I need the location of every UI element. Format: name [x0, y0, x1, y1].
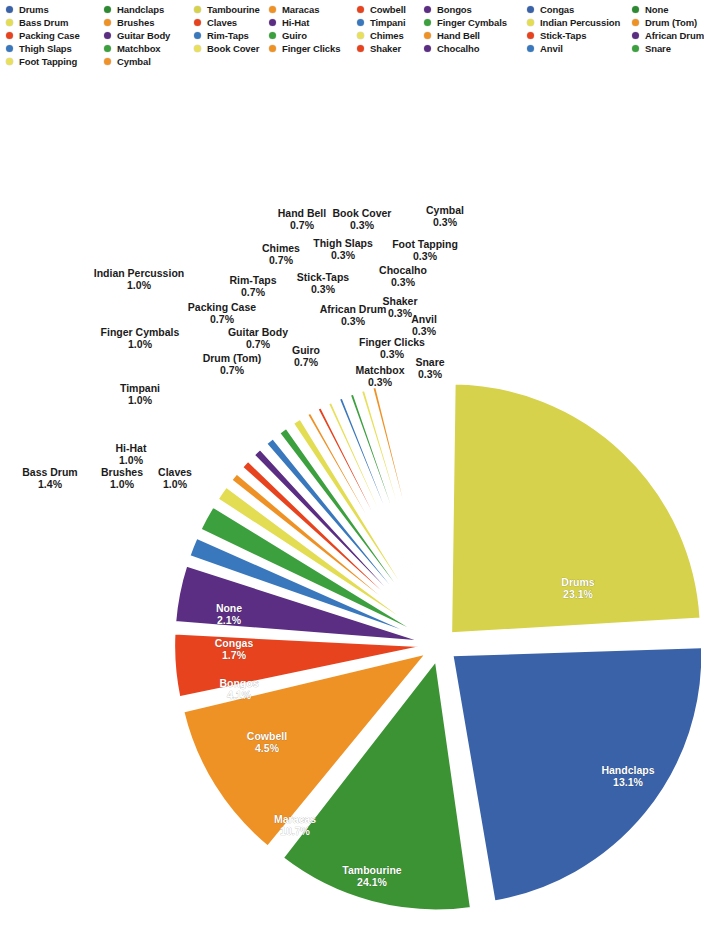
legend-item[interactable]: Chocalho: [424, 42, 507, 55]
legend-swatch-icon: [632, 6, 639, 13]
pie-slice-label-value: 0.3%: [331, 249, 356, 261]
pie-slice-label: African Drum0.3%: [320, 303, 387, 327]
pie-slice-label-value: 0.3%: [341, 315, 366, 327]
legend-item-label: Guiro: [282, 29, 307, 42]
legend-swatch-icon: [357, 32, 364, 39]
pie-slice-label-value: 4.1%: [227, 689, 252, 701]
legend-item[interactable]: Bass Drum: [6, 16, 80, 29]
pie-slice-label: Matchbox0.3%: [355, 364, 404, 388]
legend-item[interactable]: Brushes: [104, 16, 170, 29]
legend-item[interactable]: Chimes: [357, 29, 406, 42]
legend-swatch-icon: [632, 32, 639, 39]
legend-item[interactable]: Matchbox: [104, 42, 170, 55]
pie-slice-label-name: Tambourine: [342, 864, 401, 876]
pie-slice-label: Cymbal0.3%: [426, 204, 464, 228]
pie-slice-label-name: Guiro: [292, 344, 320, 356]
legend-item[interactable]: Anvil: [527, 42, 620, 55]
legend-item[interactable]: Indian Percussion: [527, 16, 620, 29]
legend-swatch-icon: [527, 32, 534, 39]
legend-column: MaracasHi-HatGuiroFinger Clicks: [269, 3, 340, 55]
legend-item-label: African Drum: [645, 29, 704, 42]
legend-item[interactable]: Hand Bell: [424, 29, 507, 42]
pie-slice-label: Snare0.3%: [415, 356, 444, 380]
pie-slice-label-name: Chocalho: [379, 264, 427, 276]
legend-item[interactable]: Cowbell: [357, 3, 406, 16]
legend-item-label: Stick-Taps: [540, 29, 586, 42]
pie-slice-label-name: Packing Case: [188, 301, 256, 313]
pie-chart-svg: Tambourine24.1%Drums23.1%Handclaps13.1%M…: [0, 74, 701, 928]
legend-item[interactable]: Timpani: [357, 16, 406, 29]
legend-item[interactable]: Bongos: [424, 3, 507, 16]
pie-slice-label-value: 0.7%: [269, 254, 294, 266]
legend-item[interactable]: Drum (Tom): [632, 16, 704, 29]
pie-slice-label: Finger Cymbals1.0%: [101, 326, 180, 350]
legend-swatch-icon: [6, 6, 13, 13]
legend-item[interactable]: Handclaps: [104, 3, 170, 16]
pie-slice-label-name: Indian Percussion: [94, 267, 184, 279]
legend-item-label: Timpani: [370, 16, 406, 29]
legend-item[interactable]: Packing Case: [6, 29, 80, 42]
legend-item[interactable]: Guitar Body: [104, 29, 170, 42]
pie-slice-label: Rim-Taps0.7%: [229, 274, 276, 298]
legend-item[interactable]: Guiro: [269, 29, 340, 42]
pie-slice-label-name: Finger Clicks: [359, 336, 425, 348]
pie-slice-label-name: Foot Tapping: [392, 238, 458, 250]
legend-item[interactable]: Shaker: [357, 42, 406, 55]
pie-slice-label-value: 0.3%: [412, 325, 437, 337]
legend-item-label: Tambourine: [207, 3, 260, 16]
pie-slice-label-name: Snare: [415, 356, 444, 368]
pie-slice-label-name: Bongos: [219, 677, 258, 689]
legend-item-label: Matchbox: [117, 42, 161, 55]
legend-item[interactable]: Drums: [6, 3, 80, 16]
pie-slice-label: Book Cover0.3%: [333, 207, 392, 231]
pie-slice-label-name: Finger Cymbals: [101, 326, 180, 338]
pie-slice[interactable]: [452, 647, 701, 901]
legend-swatch-icon: [194, 45, 201, 52]
legend-item-label: Hi-Hat: [282, 16, 309, 29]
pie-slice-label-name: Book Cover: [333, 207, 392, 219]
legend-item[interactable]: Book Cover: [194, 42, 260, 55]
legend-item[interactable]: Rim-Taps: [194, 29, 260, 42]
legend-swatch-icon: [269, 19, 276, 26]
legend-item[interactable]: Thigh Slaps: [6, 42, 80, 55]
legend-item[interactable]: Congas: [527, 3, 620, 16]
legend-item[interactable]: Hi-Hat: [269, 16, 340, 29]
pie-slice-label-value: 1.0%: [127, 279, 152, 291]
legend-item-label: Snare: [645, 42, 671, 55]
legend-item[interactable]: Finger Cymbals: [424, 16, 507, 29]
legend-item[interactable]: African Drum: [632, 29, 704, 42]
pie-slice-label-value: 0.7%: [241, 286, 266, 298]
pie-slice-label-name: Stick-Taps: [297, 271, 349, 283]
pie-slice-label-value: 4.5%: [255, 742, 280, 754]
legend-item[interactable]: Stick-Taps: [527, 29, 620, 42]
pie-slice-label-name: African Drum: [320, 303, 387, 315]
pie-slice-label-value: 2.1%: [217, 614, 242, 626]
legend-item[interactable]: Maracas: [269, 3, 340, 16]
legend-item[interactable]: Snare: [632, 42, 704, 55]
pie-slice-label-name: Rim-Taps: [229, 274, 276, 286]
legend-item[interactable]: Cymbal: [104, 55, 170, 68]
pie-slice-label-value: 24.1%: [357, 876, 387, 888]
pie-slice-label-name: Shaker: [382, 295, 417, 307]
pie-slice-label-name: Drums: [561, 576, 594, 588]
pie-slice-label-name: Hand Bell: [278, 207, 327, 219]
pie-slice-label: Timpani1.0%: [120, 382, 160, 406]
pie-slice-label: Maracas10.7%: [274, 813, 316, 837]
legend-item-label: Foot Tapping: [19, 55, 77, 68]
legend-item[interactable]: None: [632, 3, 704, 16]
chart-legend: DrumsBass DrumPacking CaseThigh SlapsFoo…: [0, 0, 701, 74]
legend-item-label: Finger Clicks: [282, 42, 340, 55]
legend-item[interactable]: Foot Tapping: [6, 55, 80, 68]
pie-slice-label: Chimes0.7%: [262, 242, 300, 266]
legend-item-label: Bass Drum: [19, 16, 68, 29]
legend-item[interactable]: Claves: [194, 16, 260, 29]
pie-slice[interactable]: [439, 379, 440, 629]
legend-item-label: Rim-Taps: [207, 29, 249, 42]
legend-item[interactable]: Tambourine: [194, 3, 260, 16]
legend-item-label: Book Cover: [207, 42, 259, 55]
legend-item[interactable]: Finger Clicks: [269, 42, 340, 55]
pie-slice-label-value: 1.0%: [163, 478, 188, 490]
legend-item-label: Cymbal: [117, 55, 151, 68]
pie-slice-label-value: 0.3%: [413, 250, 438, 262]
legend-item-label: Packing Case: [19, 29, 80, 42]
